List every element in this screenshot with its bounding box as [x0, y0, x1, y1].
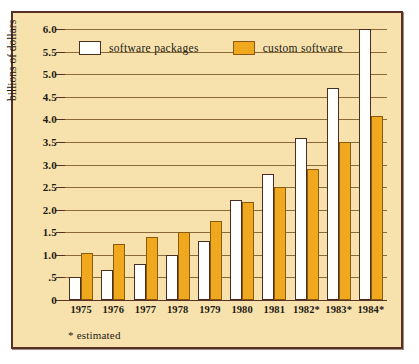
y-tick-2.5 [56, 187, 65, 188]
y-tick-label-.5: .5 [23, 272, 57, 283]
x-tick-label-1980: 1980 [226, 304, 258, 315]
bar-1979-packages [198, 241, 210, 300]
x-tick-label-1983est: 1983* [323, 304, 355, 315]
y-tick-1.0 [56, 255, 65, 256]
plot-wrapper: 0.51.01.52.02.53.03.54.04.55.05.56.0 bil… [13, 13, 405, 351]
x-tick-label-1977: 1977 [129, 304, 161, 315]
bar-1982est-packages [295, 138, 307, 300]
y-tick-1.5 [56, 232, 65, 233]
y-tick-label-2.5: 2.5 [23, 182, 57, 193]
y-tick-label-5.0: 5.0 [23, 69, 57, 80]
x-axis-tick-labels: 19751976197719781979198019811982*1983*19… [65, 304, 387, 322]
bar-1975-packages [69, 277, 81, 300]
x-tick-label-1984est: 1984* [355, 304, 387, 315]
bar-1977-custom [146, 237, 158, 300]
y-tick-5.0 [56, 74, 65, 75]
y-tick-4.5 [56, 97, 65, 98]
bar-1981-packages [262, 174, 274, 300]
gridline-6.0 [65, 29, 387, 30]
legend-swatch-custom-software [233, 41, 255, 55]
y-tick-3.0 [56, 165, 65, 166]
bar-1979-custom [210, 221, 222, 300]
footnote-estimated: * estimated [68, 329, 121, 341]
y-tick-5.5 [56, 52, 65, 53]
y-tick-label-4.5: 4.5 [23, 92, 57, 103]
y-tick-label-0: 0 [23, 295, 57, 306]
chart-plate: 0.51.01.52.02.53.03.54.04.55.05.56.0 bil… [11, 11, 403, 349]
bar-1976-packages [101, 270, 113, 300]
chart-figure: 0.51.01.52.02.53.03.54.04.55.05.56.0 bil… [0, 0, 419, 364]
y-tick-label-5.5: 5.5 [23, 47, 57, 58]
x-tick-label-1981: 1981 [258, 304, 290, 315]
bar-1981-custom [274, 187, 286, 300]
x-tick-label-1978: 1978 [162, 304, 194, 315]
gridline-0 [65, 300, 387, 301]
y-tick-2.0 [56, 210, 65, 211]
y-tick-3.5 [56, 142, 65, 143]
x-tick-label-1975: 1975 [65, 304, 97, 315]
y-tick-6.0 [56, 29, 65, 30]
gridline-4.5 [65, 97, 387, 98]
y-tick-label-1.0: 1.0 [23, 250, 57, 261]
y-axis-title: billions of dollars [6, 20, 18, 101]
bar-1984est-packages [359, 29, 371, 300]
legend-label-custom-software: custom software [263, 42, 343, 54]
y-tick-label-1.5: 1.5 [23, 227, 57, 238]
x-tick-label-1982est: 1982* [290, 304, 322, 315]
bar-1983est-custom [339, 142, 351, 300]
legend-label-software-packages: software packages [109, 42, 199, 54]
y-tick-label-6.0: 6.0 [23, 24, 57, 35]
bar-1978-packages [166, 255, 178, 300]
gridline-5.0 [65, 74, 387, 75]
bar-1977-packages [134, 264, 146, 300]
legend-item-custom-software: custom software [233, 41, 343, 55]
y-tick-label-2.0: 2.0 [23, 205, 57, 216]
y-tick-label-3.0: 3.0 [23, 160, 57, 171]
bar-1982est-custom [307, 169, 319, 300]
legend-swatch-software-packages [79, 41, 101, 55]
legend-item-software-packages: software packages [79, 41, 199, 55]
y-tick-4.0 [56, 119, 65, 120]
x-tick-label-1979: 1979 [194, 304, 226, 315]
chart-legend: software packages custom software [79, 38, 343, 57]
bar-1980-custom [242, 202, 254, 300]
plot-area [65, 29, 387, 300]
bar-1975-custom [81, 253, 93, 300]
y-tick-.5 [56, 277, 65, 278]
bar-1984est-custom [371, 116, 383, 300]
y-tick-label-4.0: 4.0 [23, 114, 57, 125]
gridline-4.0 [65, 119, 387, 120]
bar-1980-packages [230, 200, 242, 300]
x-tick-label-1976: 1976 [97, 304, 129, 315]
bar-1978-custom [178, 232, 190, 300]
y-tick-0 [56, 300, 65, 301]
bar-1983est-packages [327, 88, 339, 300]
bar-1976-custom [113, 244, 125, 300]
y-axis-tick-labels: 0.51.01.52.02.53.03.54.04.55.05.56.0 [21, 29, 57, 300]
y-tick-label-3.5: 3.5 [23, 137, 57, 148]
